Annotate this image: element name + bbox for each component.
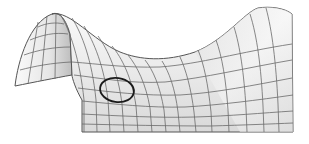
left-arch xyxy=(15,13,72,86)
saddle-surface-diagram xyxy=(0,0,309,144)
front-surface xyxy=(52,7,293,132)
figure-canvas xyxy=(0,0,309,144)
